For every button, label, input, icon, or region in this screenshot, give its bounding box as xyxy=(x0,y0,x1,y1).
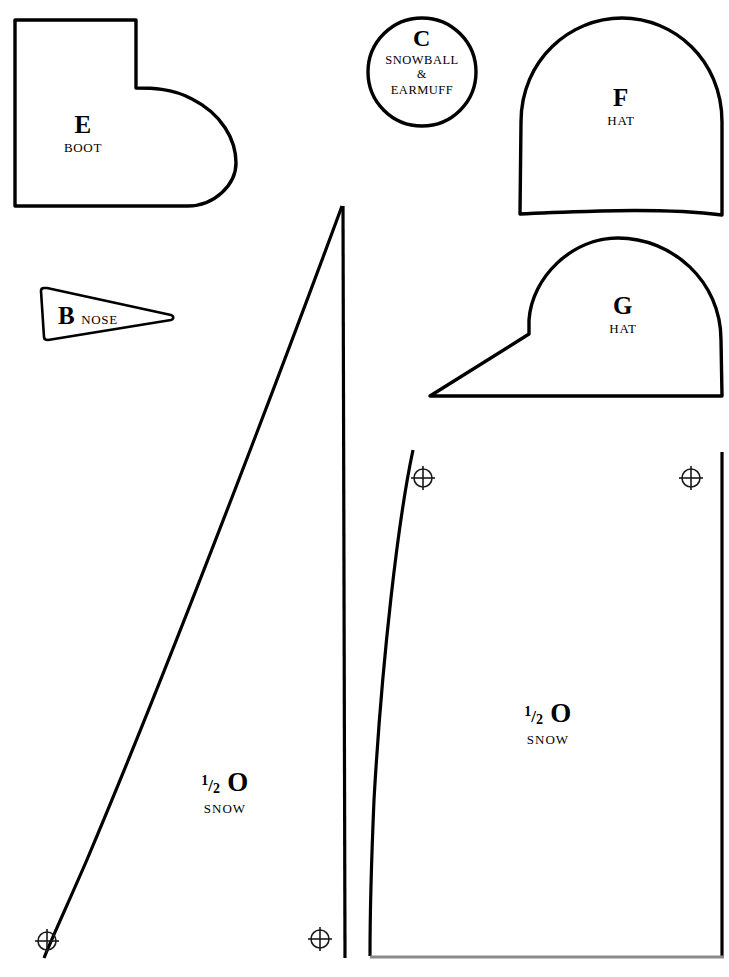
piece-desc-b: NOSE xyxy=(81,313,118,327)
piece-outline-o-snow-right-curve[interactable] xyxy=(370,450,413,956)
piece-outline-o-snow-left-spine[interactable] xyxy=(343,206,345,958)
piece-label-o-snow-left: 1/2 O SNOW xyxy=(160,768,290,816)
fraction-denominator-left: 2 xyxy=(213,781,220,796)
piece-code-g: G xyxy=(583,293,663,319)
piece-desc-o-right: SNOW xyxy=(483,733,613,747)
piece-code-b: B xyxy=(58,303,75,329)
piece-desc-c-line1: SNOWBALL xyxy=(362,54,482,67)
piece-label-b-nose: B NOSE xyxy=(58,303,118,329)
registration-mark-bottom-middle xyxy=(308,927,332,951)
piece-desc-c-line2: & xyxy=(362,68,482,81)
piece-desc-c-line3: EARMUFF xyxy=(362,84,482,97)
piece-desc-e: BOOT xyxy=(38,141,128,155)
piece-code-letter-o-left: O xyxy=(227,767,249,797)
piece-label-e-boot: E BOOT xyxy=(38,112,128,155)
piece-code-o-left: 1/2 O xyxy=(160,768,290,796)
piece-fraction-o-right: 1/2 xyxy=(524,707,543,726)
piece-code-f: F xyxy=(581,85,661,111)
piece-desc-o-left: SNOW xyxy=(160,802,290,816)
piece-desc-f: HAT xyxy=(581,114,661,128)
piece-outline-g-hat[interactable] xyxy=(430,238,722,396)
piece-label-o-snow-right: 1/2 O SNOW xyxy=(483,699,613,747)
piece-label-f-hat: F HAT xyxy=(581,85,661,128)
piece-fraction-o-left: 1/2 xyxy=(201,776,220,795)
pattern-sheet: E BOOT B NOSE C SNOWBALL & EARMUFF F HAT… xyxy=(0,0,729,977)
piece-desc-g: HAT xyxy=(583,322,663,336)
piece-code-e: E xyxy=(38,112,128,138)
piece-label-c-snowball-earmuff: C SNOWBALL & EARMUFF xyxy=(362,26,482,97)
piece-code-c: C xyxy=(362,26,482,51)
piece-code-letter-o-right: O xyxy=(550,698,572,728)
piece-label-g-hat: G HAT xyxy=(583,293,663,336)
registration-mark-top-left xyxy=(411,466,435,490)
registration-mark-top-right xyxy=(679,466,703,490)
fraction-denominator-right: 2 xyxy=(536,712,543,727)
piece-code-o-right: 1/2 O xyxy=(483,699,613,727)
